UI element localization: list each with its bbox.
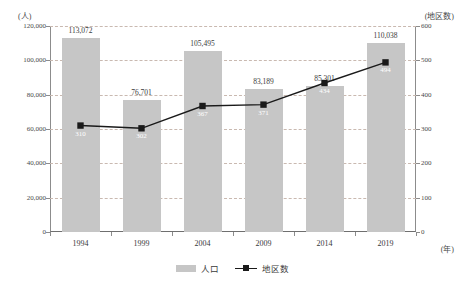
left-axis-tick-label: 120,000 [23,23,46,30]
right-axis-unit-label: (地区数) [425,10,454,21]
line-marker [321,80,327,86]
line-series [50,26,416,232]
legend-item-population: 人口 [176,262,219,274]
right-axis-tick-label: 300 [421,126,432,133]
right-axis-tick-mark [416,60,420,61]
x-axis-tick-label: 1994 [73,239,89,248]
x-axis-unit-label: (年) [441,243,454,254]
x-axis-tick-mark [416,232,417,236]
chart-legend: 人口 地区数 [0,262,464,274]
left-axis-tick-label: 100,000 [23,57,46,64]
x-axis-tick-mark [233,232,234,236]
plot-area: 020,00040,00060,00080,000100,000120,000 … [50,26,416,232]
x-axis-tick-mark [111,232,112,236]
left-axis-tick-label: 80,000 [27,91,46,98]
line-value-label: 434 [319,88,330,95]
right-axis-tick-label: 400 [421,91,432,98]
right-axis-tick-label: 0 [421,229,425,236]
right-axis-tick-mark [416,95,420,96]
line-marker [260,101,266,107]
right-axis-tick-label: 600 [421,23,432,30]
left-axis-tick-label: 60,000 [27,126,46,133]
right-axis-tick-mark [416,129,420,130]
right-axis-tick-label: 200 [421,160,432,167]
legend-label-districts: 地区数 [262,262,289,274]
x-axis-tick-label: 2014 [317,239,333,248]
line-swatch-icon [235,264,257,272]
legend-item-districts: 地区数 [235,262,289,274]
x-axis-tick-mark [355,232,356,236]
x-axis-tick-label: 1999 [134,239,150,248]
x-axis-tick-label: 2004 [195,239,211,248]
line-value-label: 494 [380,67,391,74]
x-axis-tick-label: 2009 [256,239,272,248]
left-axis-unit-label: (人) [18,10,31,21]
x-axis-tick-mark [50,232,51,236]
population-district-chart: (人) (地区数) (年) 020,00040,00060,00080,0001… [0,0,464,290]
x-axis-tick-label: 2019 [378,239,394,248]
line-marker [138,125,144,131]
line-value-label: 371 [258,110,269,117]
x-axis-tick-mark [172,232,173,236]
line-marker [77,122,83,128]
left-axis-tick-label: 40,000 [27,160,46,167]
bar-swatch-icon [176,265,196,272]
right-axis-tick-mark [416,163,420,164]
right-axis-tick-label: 100 [421,194,432,201]
right-axis-tick-label: 500 [421,57,432,64]
line-marker [382,59,388,65]
left-axis-tick-label: 20,000 [27,194,46,201]
line-value-label: 367 [197,111,208,118]
line-marker [199,103,205,109]
right-axis-tick-mark [416,26,420,27]
x-axis-tick-mark [294,232,295,236]
line-path [81,62,386,128]
line-value-label: 302 [136,133,147,140]
legend-label-population: 人口 [201,262,219,274]
line-value-label: 310 [75,131,86,138]
right-axis-tick-mark [416,198,420,199]
